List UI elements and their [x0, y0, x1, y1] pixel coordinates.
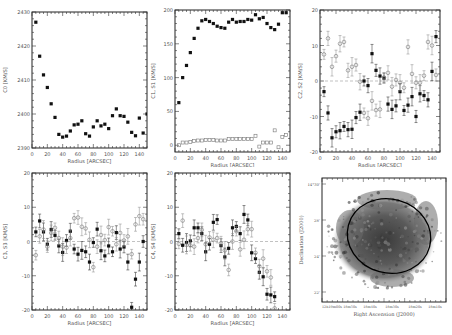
x-tick-label: 20: [44, 151, 50, 157]
y-tick-label: -20: [310, 149, 318, 155]
data-point: [99, 124, 102, 127]
x-tick-label: 18m10s: [428, 305, 442, 309]
data-point: [239, 232, 242, 235]
data-point: [246, 18, 249, 21]
y-tick-label: 10: [167, 204, 173, 210]
x-tick-label: 80: [90, 151, 96, 157]
data-point: [350, 128, 353, 131]
data-point: [34, 230, 37, 233]
data-point: [235, 138, 238, 141]
data-point: [126, 121, 129, 124]
x-tick-label: 18m40s: [363, 305, 377, 309]
data-point: [196, 27, 199, 30]
data-point: [46, 86, 49, 89]
x-tick-label: 20: [187, 313, 193, 319]
data-point: [273, 295, 276, 298]
y-axis-label: C3, S3 [KM/S]: [2, 224, 8, 259]
x-tick-label: 40: [59, 313, 65, 319]
data-point: [200, 19, 203, 22]
x-tick-label: 40: [349, 155, 355, 161]
x-tick-label: 100: [395, 155, 405, 161]
x-tick-label: 120: [119, 151, 129, 157]
data-point: [223, 27, 226, 30]
data-point: [227, 21, 230, 24]
x-tick-label: 18m30s: [385, 305, 399, 309]
x-tick-label: 80: [233, 155, 239, 161]
data-point: [269, 141, 272, 144]
data-point: [193, 140, 196, 143]
y-tick-label: -10: [310, 114, 318, 120]
data-point: [130, 306, 133, 309]
data-point: [111, 250, 114, 253]
data-point: [426, 98, 429, 101]
data-point: [346, 128, 349, 131]
data-point: [258, 17, 261, 20]
data-point: [216, 218, 219, 221]
y-tick-label: 28': [314, 218, 320, 223]
x-tick-label: 140: [278, 313, 288, 319]
data-point: [216, 139, 219, 142]
x-tick-label: 80: [381, 155, 387, 161]
x-tick-label: 120: [411, 155, 421, 161]
data-point: [142, 240, 145, 243]
data-point: [326, 111, 329, 114]
x-tick-label: 20: [187, 155, 193, 161]
data-point: [208, 138, 211, 141]
data-point: [250, 251, 253, 254]
x-axis-label: Right Ascension (J2000): [353, 311, 414, 318]
y-axis-label: Declination (J2000): [298, 215, 305, 264]
data-point: [212, 22, 215, 25]
data-point: [223, 139, 226, 142]
data-point: [115, 107, 118, 110]
x-axis-label: Radius [ARCSEC]: [211, 320, 255, 326]
data-point: [204, 18, 207, 21]
data-point: [358, 111, 361, 114]
data-point: [69, 129, 72, 132]
x-tick-label: 140: [135, 151, 145, 157]
data-point: [231, 138, 234, 141]
y-tick-label: 2390: [17, 145, 30, 151]
y-tick-label: 20: [24, 170, 30, 176]
x-tick-label: 120: [119, 313, 129, 319]
y-tick-label: 2410: [17, 77, 30, 83]
data-point: [193, 37, 196, 40]
data-point: [378, 74, 381, 77]
x-tick-label: 100: [104, 313, 114, 319]
data-point: [239, 20, 242, 23]
data-point: [189, 51, 192, 54]
data-point: [92, 241, 95, 244]
data-point: [130, 131, 133, 134]
data-point: [197, 139, 200, 142]
data-point: [354, 116, 357, 119]
data-point: [134, 278, 137, 281]
data-point: [370, 52, 373, 55]
data-point: [362, 79, 365, 82]
data-point: [231, 18, 234, 21]
data-point: [88, 135, 91, 138]
c1-s1-radius-plot: 020406080100120140050100150200Radius [AR…: [148, 0, 298, 167]
data-point: [430, 70, 433, 73]
y-tick-label: 2400: [17, 111, 30, 117]
data-point: [266, 141, 269, 144]
data-point: [119, 247, 122, 250]
data-point: [262, 141, 265, 144]
x-tick-label: 120: [262, 155, 272, 161]
data-point: [258, 145, 261, 148]
data-point: [386, 102, 389, 105]
data-point: [254, 134, 257, 137]
data-point: [231, 226, 234, 229]
c0-radius-plot: 02040608010012014023902400241024202430Ra…: [0, 0, 150, 167]
data-point: [422, 94, 425, 97]
y-tick-label: 150: [163, 41, 173, 47]
data-point: [80, 249, 83, 252]
galaxy-map-panel: 14°30'28'24'22'12h19m00s18m50s18m40s18m3…: [297, 165, 452, 335]
y-tick-label: 200: [163, 7, 173, 13]
data-point: [434, 35, 437, 38]
data-point: [265, 22, 268, 25]
x-tick-label: 100: [247, 313, 257, 319]
data-point: [250, 138, 253, 141]
data-point: [76, 123, 79, 126]
data-point: [53, 234, 56, 237]
data-point: [200, 139, 203, 142]
data-point: [273, 129, 276, 132]
